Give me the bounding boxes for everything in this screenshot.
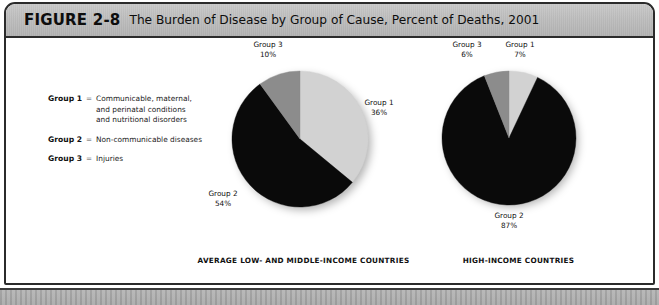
legend-item-group-3: Group 3 = Injuries [40, 154, 205, 165]
pie-label-name: Group 2 [494, 211, 523, 220]
page-bottom-strip [0, 288, 659, 305]
pie-label-name: Group 1 [505, 40, 534, 49]
legend-separator-icon: = [82, 135, 96, 146]
legend-description-group-2: Non-communicable diseases [96, 135, 205, 146]
legend-separator-icon: = [82, 94, 96, 105]
pie-chart-low-and-middle-income: Group 3 10% Group 1 36% Group 2 54% AVER… [196, 38, 411, 285]
pie-label-group-2-lmic: Group 2 54% [190, 189, 256, 208]
pie-label-group-3-lmic: Group 3 10% [230, 40, 306, 59]
legend-key-group-2: Group 2 [40, 135, 82, 146]
legend-description-group-3: Injuries [96, 154, 205, 165]
pie-slices-high-income [441, 70, 577, 206]
figure-plot-area: Group 1 = Communicable, maternal,and per… [6, 38, 653, 285]
chart-caption-high-income: HIGH-INCOME COUNTRIES [411, 256, 626, 265]
pie-label-name: Group 2 [208, 189, 237, 198]
legend-separator-icon: = [82, 154, 96, 165]
pie-label-group-1-lmic: Group 1 36% [346, 98, 412, 117]
figure-header-band: FIGURE 2-8 The Burden of Disease by Grou… [6, 4, 653, 38]
pie-slices-low-and-middle-income [231, 70, 369, 208]
figure-title: The Burden of Disease by Group of Cause,… [129, 13, 539, 27]
legend-key-group-3: Group 3 [40, 154, 82, 165]
legend-item-group-2: Group 2 = Non-communicable diseases [40, 135, 205, 146]
legend-key-group-1: Group 1 [40, 94, 82, 105]
pie-label-value: 10% [230, 50, 306, 60]
legend-item-group-1: Group 1 = Communicable, maternal,and per… [40, 94, 205, 126]
pie-label-name: Group 3 [452, 40, 481, 49]
pie-label-value: 36% [346, 108, 412, 118]
pie-label-group-2-hic: Group 2 87% [476, 211, 542, 230]
pie-chart-high-income: Group 3 6% Group 1 7% Group 2 87% HIGH-I… [411, 38, 626, 285]
pie-label-value: 54% [190, 199, 256, 209]
figure-number: FIGURE 2-8 [24, 11, 120, 29]
legend-description-group-1: Communicable, maternal,and perinatal con… [96, 94, 205, 126]
pie-label-value: 7% [487, 50, 553, 60]
pie-label-group-1-hic: Group 1 7% [487, 40, 553, 59]
legend: Group 1 = Communicable, maternal,and per… [40, 94, 205, 174]
chart-caption-low-and-middle-income: AVERAGE LOW- AND MIDDLE-INCOME COUNTRIES [196, 256, 411, 265]
figure-container: FIGURE 2-8 The Burden of Disease by Grou… [4, 2, 655, 285]
pie-label-value: 87% [476, 221, 542, 231]
page-left-edge [0, 0, 4, 288]
pie-label-name: Group 1 [364, 98, 393, 107]
pie-label-name: Group 3 [253, 40, 282, 49]
